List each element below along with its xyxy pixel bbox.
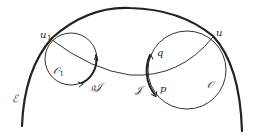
- label-J: 𝒥: [135, 85, 142, 95]
- label-gJ: 𝔤𝒥: [91, 82, 102, 92]
- label-u1: u1: [40, 30, 51, 42]
- label-E: ℰ: [12, 94, 18, 104]
- label-u: u: [216, 28, 222, 38]
- label-O1: 𝒪1: [53, 66, 64, 78]
- label-p: p: [160, 84, 166, 94]
- connecting-curve: [52, 37, 213, 75]
- diagram-canvas: [0, 0, 257, 138]
- label-O: 𝒪: [207, 80, 213, 90]
- label-q: q: [157, 48, 163, 58]
- circle-O: [148, 31, 226, 109]
